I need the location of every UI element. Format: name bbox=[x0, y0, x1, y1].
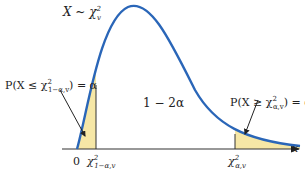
right-tail-label: P(X ≥ χ2α,v) = α bbox=[230, 95, 305, 111]
origin-tick-label: 0 bbox=[73, 155, 80, 168]
density-curve bbox=[77, 6, 300, 149]
distribution-label: X ~ χ2v bbox=[62, 5, 102, 22]
chi-square-diagram: X ~ χ2v P(X ≤ χ21−α,v) = α 1 − 2α P(X ≥ … bbox=[0, 0, 305, 175]
middle-region-label: 1 − 2α bbox=[143, 96, 184, 110]
x-axis-label: x bbox=[292, 142, 299, 155]
left-critical-tick-label: χ21−α,v bbox=[86, 154, 115, 170]
left-tail-label: P(X ≤ χ21−α,v) = α bbox=[5, 78, 98, 94]
right-critical-tick-label: χ2α,v bbox=[227, 154, 246, 170]
left-pointer-arrow bbox=[60, 90, 85, 136]
